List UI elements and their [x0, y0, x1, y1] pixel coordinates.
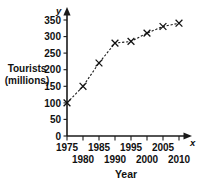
- data-point-2010: [176, 20, 183, 27]
- y-axis-title-line1: Tourists: [8, 63, 47, 74]
- xtick-label-1985: 1985: [88, 142, 111, 153]
- ytick-label-0: 0: [55, 131, 61, 142]
- ytick-label-200: 200: [44, 64, 61, 75]
- data-point-1990: [112, 40, 119, 47]
- xtick-label-2005: 2005: [152, 142, 175, 153]
- tourists-line-chart: 0 50 100 150 200 250 300 350 1975 1985 1…: [0, 0, 199, 183]
- y-axis: [63, 7, 70, 136]
- data-point-1985: [96, 60, 103, 67]
- xtick-label-1975: 1975: [56, 142, 79, 153]
- xtick-label-1995: 1995: [120, 142, 143, 153]
- series-markers: [64, 20, 183, 107]
- xtick-label-2010: 2010: [168, 154, 191, 165]
- x-axis: [67, 132, 192, 139]
- ytick-label-350: 350: [44, 15, 61, 26]
- y-axis-letter: y: [55, 5, 62, 16]
- ytick-label-50: 50: [50, 114, 62, 125]
- ytick-label-300: 300: [44, 31, 61, 42]
- x-axis-tick-labels-row1: 1975 1985 1995 2005: [56, 142, 175, 153]
- data-point-1995: [128, 38, 135, 45]
- data-point-2005: [160, 23, 167, 30]
- x-axis-tick-labels-row2: 1980 1990 2000 2010: [72, 154, 191, 165]
- xtick-label-1990: 1990: [104, 154, 127, 165]
- data-point-1980: [80, 83, 87, 90]
- x-axis-letter: x: [189, 137, 196, 148]
- chart-canvas: 0 50 100 150 200 250 300 350 1975 1985 1…: [0, 0, 199, 183]
- ytick-label-100: 100: [44, 98, 61, 109]
- y-axis-title-line2: (millions): [5, 75, 49, 86]
- data-point-2000: [144, 30, 151, 37]
- ytick-label-250: 250: [44, 48, 61, 59]
- xtick-label-2000: 2000: [136, 154, 159, 165]
- series-line-tourists: [67, 23, 179, 103]
- xtick-label-1980: 1980: [72, 154, 95, 165]
- y-axis-arrow-icon: [63, 7, 70, 16]
- x-axis-title: Year: [115, 168, 137, 180]
